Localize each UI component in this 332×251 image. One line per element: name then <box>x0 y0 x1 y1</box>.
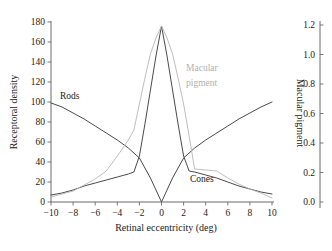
chart-canvas: 020406080100120140160180 −10−8−6−4−20246… <box>0 0 332 251</box>
left-axis-tick-label: 80 <box>36 117 46 127</box>
macular-pigment-label-line2: pigment <box>186 78 217 88</box>
bottom-axis-tick-label: 4 <box>203 208 208 218</box>
right-axis-tick-label: 0.0 <box>303 197 315 207</box>
y2-axis-title: Macular pigment <box>295 79 306 148</box>
left-axis-tick-label: 40 <box>36 157 46 167</box>
bottom-axis-tick-label: 10 <box>267 208 277 218</box>
bottom-axis-tick-label: 0 <box>159 208 164 218</box>
left-axis-tick-label: 20 <box>36 177 46 187</box>
right-axis-tick-label: 1.0 <box>303 50 315 60</box>
cones-label: Cones <box>190 174 214 184</box>
left-axis-tick-label: 140 <box>31 57 46 67</box>
bottom-axis-tick-label: −6 <box>90 208 100 218</box>
bottom-axis-tick-label: 8 <box>248 208 253 218</box>
left-axis-tick-label: 0 <box>40 197 45 207</box>
left-axis-tick-label: 180 <box>31 17 46 27</box>
left-axis-tick-label: 100 <box>31 97 46 107</box>
x-axis-title: Retinal eccentricity (deg) <box>115 222 217 234</box>
chart-figure: 020406080100120140160180 −10−8−6−4−20246… <box>0 0 332 251</box>
bottom-axis-tick-label: 2 <box>181 208 186 218</box>
bottom-axis-tick-label: 6 <box>225 208 230 218</box>
y-axis-title: Receptoral density <box>8 75 19 150</box>
bottom-axis-tick-label: −10 <box>44 208 59 218</box>
bottom-axis-tick-label: −4 <box>112 208 122 218</box>
bottom-axis-tick-label: −2 <box>134 208 144 218</box>
left-axis-tick-label: 160 <box>31 37 46 47</box>
rods-label: Rods <box>60 91 80 101</box>
right-axis-tick-label: 0.2 <box>303 168 315 178</box>
bottom-axis-tick-label: −8 <box>68 208 78 218</box>
left-axis-tick-label: 120 <box>31 77 46 87</box>
left-axis-tick-label: 60 <box>36 137 46 147</box>
right-axis-tick-label: 1.2 <box>303 20 315 30</box>
macular-pigment-label-line1: Macular <box>186 63 218 73</box>
